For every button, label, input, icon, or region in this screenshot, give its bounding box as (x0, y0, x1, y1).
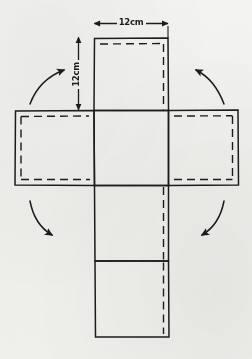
fold-arrow-top-left (30, 70, 64, 104)
right-face-outline (169, 110, 239, 186)
fold-arrow-bottom-left (30, 201, 52, 235)
right-face-dashed-edge (174, 116, 233, 180)
fold-arrow-top-right (196, 70, 224, 104)
width-dimension-label: 12cm (119, 17, 144, 27)
cube-net-diagram: 12cm 12cm (0, 0, 252, 359)
top-face-dashed-edge (100, 44, 164, 110)
diagram-page: 12cm 12cm (0, 0, 252, 359)
fold-arrow-bottom-right (202, 201, 224, 235)
left-face-dashed-edge (21, 116, 90, 180)
height-dimension-label: 12cm (71, 62, 81, 87)
top-face-outline (94, 38, 169, 111)
width-dimension: 12cm (95, 16, 169, 39)
center-face-outline (94, 111, 169, 186)
left-face-outline (15, 111, 95, 186)
height-dimension: 12cm (71, 38, 86, 111)
bottom-face-outline (95, 261, 169, 337)
lower-face-outline (95, 186, 169, 262)
